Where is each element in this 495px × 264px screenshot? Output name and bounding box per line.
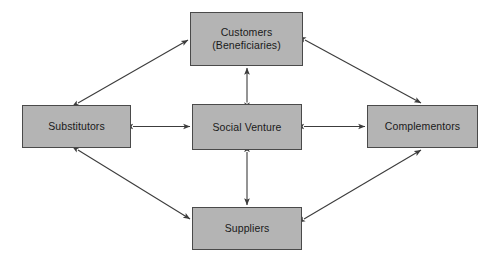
- node-complementors-label: Complementors: [385, 120, 460, 133]
- edge-substitutors-customers: [78, 40, 188, 103]
- node-suppliers-label: Suppliers: [225, 222, 270, 235]
- node-social-venture-label: Social Venture: [212, 121, 281, 134]
- node-customers[interactable]: Customers (Beneficiaries): [190, 12, 303, 66]
- edge-substitutors-suppliers: [78, 150, 190, 219]
- diagram-canvas: Customers (Beneficiaries) Substitutors S…: [0, 0, 495, 264]
- edge-customers-complementors: [305, 40, 421, 103]
- node-substitutors[interactable]: Substitutors: [22, 105, 131, 148]
- node-social-venture[interactable]: Social Venture: [192, 104, 302, 150]
- node-complementors[interactable]: Complementors: [367, 105, 478, 148]
- edge-suppliers-complementors: [304, 150, 421, 219]
- node-substitutors-label: Substitutors: [48, 120, 105, 133]
- node-suppliers[interactable]: Suppliers: [192, 207, 302, 250]
- node-customers-label: Customers (Beneficiaries): [212, 26, 281, 52]
